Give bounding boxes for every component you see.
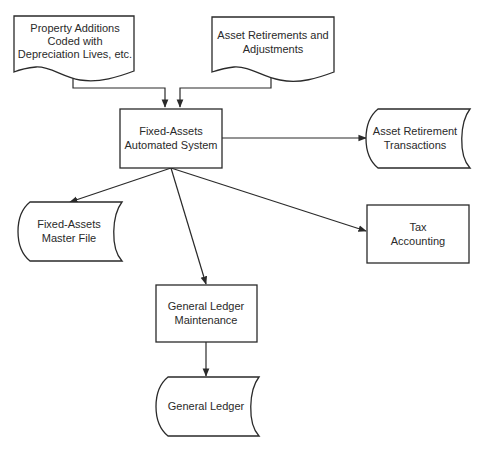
- edge-asset-retirements-to-system: [180, 74, 271, 107]
- node-label: Coded with: [47, 35, 102, 47]
- edge-system-to-gl-maintenance: [171, 168, 206, 284]
- node-gl-maintenance: General Ledger Maintenance: [156, 285, 257, 342]
- node-label: Property Additions: [30, 22, 120, 34]
- node-label: Fixed-Assets: [139, 125, 203, 137]
- node-label: Fixed-Assets: [37, 218, 101, 230]
- node-label: Accounting: [391, 235, 445, 247]
- node-label: Depreciation Lives, etc.: [18, 48, 132, 60]
- node-label: General Ledger: [168, 400, 245, 412]
- node-asset-retirements: Asset Retirements and Adjustments: [212, 17, 334, 81]
- node-asset-retirement-transactions: Asset Retirement Transactions: [366, 109, 470, 168]
- edge-system-to-tax-accounting: [171, 168, 366, 231]
- node-label: Adjustments: [243, 43, 304, 55]
- node-fixed-assets-master-file: Fixed-Assets Master File: [18, 202, 122, 261]
- edge-system-to-master-file: [70, 168, 171, 202]
- node-tax-accounting: Tax Accounting: [367, 205, 469, 263]
- node-label: Maintenance: [175, 314, 238, 326]
- node-fixed-assets-system: Fixed-Assets Automated System: [120, 109, 222, 168]
- flowchart-canvas: Property Additions Coded with Depreciati…: [0, 0, 487, 449]
- node-label: Tax: [409, 221, 427, 233]
- node-general-ledger: General Ledger: [156, 377, 259, 436]
- node-label: Transactions: [384, 139, 447, 151]
- node-label: Asset Retirements and: [217, 29, 328, 41]
- node-label: Automated System: [125, 139, 218, 151]
- node-label: General Ledger: [168, 300, 245, 312]
- node-label: Asset Retirement: [373, 125, 457, 137]
- node-label: Master File: [42, 232, 96, 244]
- node-property-additions: Property Additions Coded with Depreciati…: [14, 16, 134, 81]
